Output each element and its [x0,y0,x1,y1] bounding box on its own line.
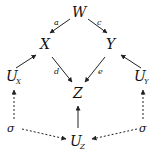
node-sigma-left: σ [7,122,15,135]
edge-sigmal-uz [22,129,66,139]
node-uy: U Y [134,68,150,86]
edges [14,19,143,139]
node-z: Z [72,85,83,101]
node-y: Y [106,36,117,52]
svg-text:X: X [15,78,22,86]
node-x: X [39,36,51,52]
node-w: W [72,4,88,20]
edge-ux-x [16,55,36,68]
edge-sigmar-uz [92,129,137,139]
causal-diagram: a c d e W X Y Z U X U Y U Z σ σ [0,0,157,151]
edge-label-e: e [98,67,103,76]
node-sigma-right: σ [139,122,147,135]
edge-label-d: d [54,67,59,76]
edge-uy-y [121,55,141,68]
svg-text:Z: Z [79,143,85,151]
edge-w-x [50,19,70,33]
node-uz: U Z [70,133,85,151]
edge-label-c: c [97,18,102,27]
node-ux: U X [6,68,22,86]
edge-label-a: a [54,18,59,27]
svg-text:Y: Y [144,78,150,86]
